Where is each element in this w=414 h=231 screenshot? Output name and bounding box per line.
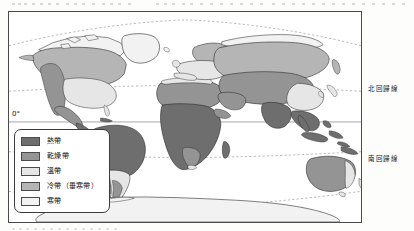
text-bleed-tick bbox=[372, 3, 375, 5]
text-bleed-tick bbox=[58, 228, 61, 230]
text-bleed-tick bbox=[66, 228, 69, 230]
text-bleed-tick bbox=[210, 3, 213, 5]
text-bleed-tick bbox=[250, 3, 253, 5]
legend-label-arid: 乾燥帶 bbox=[47, 153, 69, 160]
text-bleed-tick bbox=[92, 3, 95, 5]
text-bleed-tick bbox=[220, 3, 223, 5]
text-bleed-tick bbox=[382, 3, 385, 5]
text-bleed-tick bbox=[82, 3, 85, 5]
text-bleed-tick bbox=[74, 3, 77, 5]
bottom-text-bleed bbox=[10, 227, 130, 230]
text-bleed-tick bbox=[12, 3, 15, 5]
legend-swatch-subarctic bbox=[21, 182, 40, 191]
text-bleed-tick bbox=[282, 3, 285, 5]
text-bleed-tick bbox=[118, 3, 121, 5]
legend-box: 熱帶 乾燥帶 溫帶 冷帶（垂寒帶） 寒帶 bbox=[14, 129, 110, 213]
text-bleed-tick bbox=[352, 3, 355, 5]
text-bleed-tick bbox=[114, 228, 117, 230]
text-bleed-tick bbox=[48, 3, 51, 5]
legend-item-temperate: 溫帶 bbox=[21, 164, 104, 179]
text-bleed-tick bbox=[332, 3, 335, 5]
text-bleed-tick bbox=[128, 3, 131, 5]
legend-swatch-polar bbox=[21, 197, 40, 206]
text-bleed-tick bbox=[98, 228, 101, 230]
text-bleed-tick bbox=[56, 3, 59, 5]
text-bleed-tick bbox=[74, 228, 77, 230]
text-bleed-tick bbox=[40, 3, 43, 5]
text-bleed-tick bbox=[342, 3, 345, 5]
text-bleed-tick bbox=[90, 228, 93, 230]
text-bleed-tick bbox=[24, 3, 27, 5]
text-bleed-tick bbox=[312, 3, 315, 5]
text-bleed-tick bbox=[240, 3, 243, 5]
legend-item-polar: 寒帶 bbox=[21, 194, 104, 209]
text-bleed-tick bbox=[172, 3, 175, 5]
text-bleed-tick bbox=[50, 228, 53, 230]
text-bleed-tick bbox=[392, 3, 395, 5]
tropic-of-cancer-label: 北回歸線 bbox=[368, 83, 398, 93]
text-bleed-tick bbox=[200, 3, 203, 5]
text-bleed-tick bbox=[82, 228, 85, 230]
text-bleed-tick bbox=[19, 228, 22, 230]
text-bleed-tick bbox=[18, 3, 21, 5]
text-bleed-tick bbox=[106, 228, 109, 230]
tropic-of-capricorn-label: 南回歸線 bbox=[368, 153, 398, 163]
text-bleed-tick bbox=[32, 3, 35, 5]
legend-label-tropical: 熱帶 bbox=[47, 138, 62, 145]
text-bleed-tick bbox=[190, 3, 193, 5]
text-bleed-tick bbox=[272, 3, 275, 5]
top-text-bleed bbox=[6, 0, 408, 5]
text-bleed-tick bbox=[230, 3, 233, 5]
legend-swatch-temperate bbox=[21, 167, 40, 176]
text-bleed-tick bbox=[260, 3, 263, 5]
legend-item-arid: 乾燥帶 bbox=[21, 149, 104, 164]
legend-label-temperate: 溫帶 bbox=[47, 168, 62, 175]
scan-page: 北回歸線 南回歸線 0° 熱帶 乾燥帶 溫帶 冷帶（垂寒帶） 寒帶 bbox=[0, 0, 414, 231]
text-bleed-tick bbox=[156, 3, 159, 5]
text-bleed-tick bbox=[322, 3, 325, 5]
legend-swatch-arid bbox=[21, 152, 40, 161]
text-bleed-tick bbox=[26, 228, 29, 230]
text-bleed-tick bbox=[164, 3, 167, 5]
text-bleed-tick bbox=[102, 3, 105, 5]
text-bleed-tick bbox=[302, 3, 305, 5]
legend-label-polar: 寒帶 bbox=[47, 198, 62, 205]
text-bleed-tick bbox=[292, 3, 295, 5]
text-bleed-tick bbox=[42, 228, 45, 230]
text-bleed-tick bbox=[12, 228, 15, 230]
equator-label: 0° bbox=[12, 110, 20, 118]
text-bleed-tick bbox=[182, 3, 185, 5]
text-bleed-tick bbox=[34, 228, 37, 230]
legend-swatch-tropical bbox=[21, 137, 40, 146]
legend-label-subarctic: 冷帶（垂寒帶） bbox=[47, 183, 98, 190]
text-bleed-tick bbox=[402, 3, 405, 5]
text-bleed-tick bbox=[66, 3, 69, 5]
text-bleed-tick bbox=[362, 3, 365, 5]
text-bleed-tick bbox=[110, 3, 113, 5]
legend-item-tropical: 熱帶 bbox=[21, 134, 104, 149]
legend-item-subarctic: 冷帶（垂寒帶） bbox=[21, 179, 104, 194]
